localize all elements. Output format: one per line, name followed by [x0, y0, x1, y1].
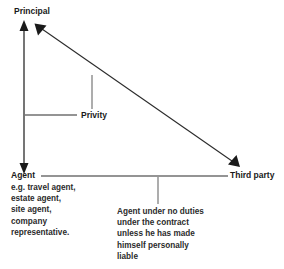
agent-examples-list: e.g. travel agent, estate agent, site ag…: [11, 182, 97, 238]
node-label-principal: Principal: [14, 6, 50, 17]
caption-line: liable: [117, 251, 227, 262]
principal-thirdparty-diagonal-line: [42, 29, 232, 161]
node-label-agent: Agent: [11, 170, 97, 181]
agent-duties-caption: Agent under no duties under the contract…: [117, 206, 227, 262]
node-label-third-party: Third party: [230, 170, 274, 181]
agent-example-line: e.g. travel agent,: [11, 182, 97, 193]
arrowhead-diagonal-thirdparty: [228, 155, 240, 167]
caption-line: himself personally: [117, 240, 227, 251]
caption-line: Agent under no duties: [117, 206, 227, 217]
agent-example-line: estate agent,: [11, 193, 97, 204]
relationship-label-privity: Privity: [81, 110, 107, 121]
arrowhead-diagonal-principal: [35, 24, 47, 36]
arrowhead-up-principal: [20, 20, 29, 31]
agent-example-line: representative.: [11, 227, 97, 238]
caption-line: unless he has made: [117, 228, 227, 239]
agent-node-block: Agent e.g. travel agent, estate agent, s…: [11, 170, 97, 238]
agent-example-line: company: [11, 216, 97, 227]
diagram-canvas: Principal Third party Privity Agent e.g.…: [0, 0, 284, 269]
agent-example-line: site agent,: [11, 204, 97, 215]
caption-line: under the contract: [117, 217, 227, 228]
